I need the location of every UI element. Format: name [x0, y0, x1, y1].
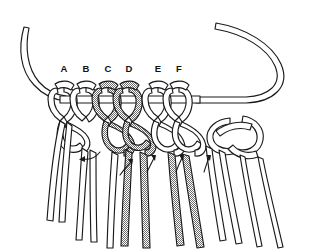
- hanging-cords: [47, 121, 283, 248]
- holding-cord-spans: [60, 96, 200, 103]
- holding-cord-left-tail: [21, 27, 66, 101]
- direction-arrow-3: [147, 155, 156, 172]
- direction-arrow-4: [176, 155, 184, 172]
- cord-labels: A B C D E F: [61, 63, 183, 74]
- holding-cord-right-tail: [196, 23, 284, 103]
- cord-label-c: C: [105, 63, 112, 74]
- secondary-knot-midright: [151, 121, 206, 156]
- diagram-canvas: A B C D E F: [0, 0, 314, 251]
- knotting-diagram-figure: A B C D E F: [0, 0, 314, 251]
- cord-label-b: B: [83, 63, 90, 74]
- cord-label-a: A: [61, 63, 68, 74]
- cord-label-e: E: [155, 63, 161, 74]
- right-free-loop-knot: [207, 116, 263, 159]
- cord-label-f: F: [176, 63, 182, 74]
- cord-label-d: D: [126, 63, 133, 74]
